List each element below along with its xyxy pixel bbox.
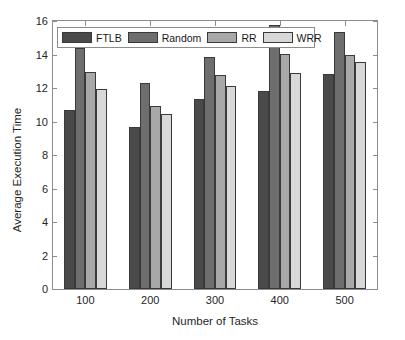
bar-rr-400	[280, 54, 291, 289]
y-axis-tick-label: 12	[8, 82, 48, 94]
bar-ftlb-100	[64, 110, 75, 289]
legend-swatch-icon	[263, 32, 293, 43]
bar-rr-100	[85, 72, 96, 289]
legend-entry-rr[interactable]: RR	[207, 32, 256, 44]
y-axis-tick-label: 14	[8, 49, 48, 61]
bar-random-400	[269, 25, 280, 289]
legend-swatch-icon	[62, 32, 92, 43]
bar-rr-300	[215, 75, 226, 289]
bars-container	[53, 21, 377, 289]
y-axis-tick-mark	[373, 289, 378, 290]
bar-wrr-200	[161, 114, 172, 289]
bar-ftlb-500	[323, 74, 334, 289]
bar-chart-figure: Average Execution Time 0246810121416 100…	[0, 0, 405, 340]
bar-random-100	[75, 48, 86, 289]
y-axis-tick-label: 4	[8, 216, 48, 228]
bar-rr-500	[345, 55, 356, 290]
bar-ftlb-300	[194, 99, 205, 289]
bar-random-500	[334, 32, 345, 289]
legend-swatch-icon	[207, 32, 237, 43]
x-axis-tick-label: 100	[76, 294, 94, 306]
y-axis-tick-label: 8	[8, 149, 48, 161]
bar-wrr-300	[226, 86, 237, 289]
y-axis-tick-label: 16	[8, 15, 48, 27]
y-axis-tick-label: 2	[8, 250, 48, 262]
chart-legend: FTLBRandomRRWRR	[57, 27, 315, 48]
legend-swatch-icon	[128, 32, 158, 43]
legend-label: WRR	[297, 32, 322, 44]
bar-wrr-500	[355, 62, 366, 289]
legend-entry-random[interactable]: Random	[128, 32, 202, 44]
x-axis-tick-label: 200	[141, 294, 159, 306]
bar-ftlb-400	[258, 91, 269, 289]
legend-label: RR	[241, 32, 256, 44]
legend-label: Random	[162, 32, 202, 44]
y-axis-tick-mark	[52, 289, 57, 290]
y-axis-tick-label: 10	[8, 116, 48, 128]
bar-random-300	[204, 57, 215, 289]
bar-random-200	[140, 83, 151, 289]
bar-wrr-100	[96, 89, 107, 289]
bar-rr-200	[150, 106, 161, 289]
x-axis-tick-label: 300	[206, 294, 224, 306]
bar-ftlb-200	[129, 127, 140, 289]
x-axis-label: Number of Tasks	[52, 315, 378, 327]
x-axis-tick-label: 400	[271, 294, 289, 306]
legend-entry-wrr[interactable]: WRR	[263, 32, 322, 44]
legend-entry-ftlb[interactable]: FTLB	[62, 32, 122, 44]
bar-wrr-400	[290, 73, 301, 289]
x-axis-tick-label: 500	[335, 294, 353, 306]
legend-label: FTLB	[96, 32, 122, 44]
y-axis-tick-label: 0	[8, 283, 48, 295]
y-axis-tick-label: 6	[8, 183, 48, 195]
